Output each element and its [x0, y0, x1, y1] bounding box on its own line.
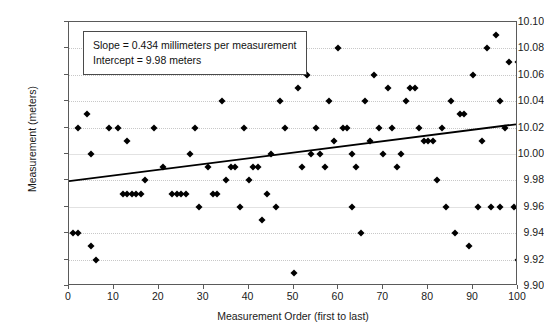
x-tick-mark: [337, 285, 338, 289]
x-tick-mark: [427, 285, 428, 289]
data-point: [510, 203, 517, 210]
data-point: [115, 124, 122, 131]
data-point: [474, 203, 481, 210]
data-point: [106, 124, 113, 131]
x-tick-mark: [248, 285, 249, 289]
data-point: [232, 164, 239, 171]
data-point: [124, 137, 131, 144]
data-point: [375, 124, 382, 131]
data-point: [92, 256, 99, 263]
data-point: [236, 203, 243, 210]
data-point: [479, 137, 486, 144]
data-point: [259, 216, 266, 223]
data-point: [411, 84, 418, 91]
data-point: [317, 150, 324, 157]
data-point: [492, 32, 499, 39]
data-point: [254, 164, 261, 171]
data-point: [88, 243, 95, 250]
data-point: [389, 124, 396, 131]
data-point: [366, 137, 373, 144]
data-point: [326, 98, 333, 105]
data-point: [245, 177, 252, 184]
gridline: [69, 260, 516, 261]
data-point: [362, 98, 369, 105]
data-point: [74, 230, 81, 237]
x-tick-mark: [293, 285, 294, 289]
x-tick-label: 30: [183, 290, 223, 302]
data-point: [187, 150, 194, 157]
data-point: [483, 45, 490, 52]
data-point: [290, 269, 297, 276]
data-point: [205, 164, 212, 171]
data-point: [393, 164, 400, 171]
data-point: [434, 177, 441, 184]
data-point: [335, 45, 342, 52]
x-tick-label: 80: [407, 290, 447, 302]
data-point: [496, 98, 503, 105]
data-point: [488, 203, 495, 210]
x-tick-label: 20: [138, 290, 178, 302]
data-point: [371, 71, 378, 78]
data-point: [416, 124, 423, 131]
data-point: [196, 203, 203, 210]
data-point: [470, 71, 477, 78]
data-point: [241, 124, 248, 131]
data-point: [344, 124, 351, 131]
data-point: [505, 58, 512, 65]
data-point: [223, 177, 230, 184]
data-point: [276, 98, 283, 105]
data-point: [465, 243, 472, 250]
x-tick-mark: [382, 285, 383, 289]
data-point: [438, 124, 445, 131]
gridline: [69, 154, 516, 155]
x-tick-label: 100: [497, 290, 537, 302]
x-tick-mark: [472, 285, 473, 289]
data-point: [514, 256, 517, 263]
data-point: [514, 58, 517, 65]
data-point: [380, 150, 387, 157]
data-point: [312, 124, 319, 131]
x-tick-label: 10: [93, 290, 133, 302]
y-axis-title: Measurement (meters): [26, 29, 38, 249]
data-point: [83, 111, 90, 118]
data-point: [429, 137, 436, 144]
data-point: [501, 124, 508, 131]
data-point: [182, 190, 189, 197]
x-axis-title: Measurement Order (first to last): [68, 310, 518, 322]
data-point: [308, 150, 315, 157]
x-tick-label: 60: [317, 290, 357, 302]
data-point: [447, 98, 454, 105]
data-point: [452, 230, 459, 237]
data-point: [353, 164, 360, 171]
slope-text: Slope = 0.434 millimeters per measuremen…: [93, 38, 296, 53]
data-point: [160, 164, 167, 171]
x-tick-mark: [203, 285, 204, 289]
data-point: [294, 84, 301, 91]
x-tick-mark: [113, 285, 114, 289]
x-tick-label: 50: [273, 290, 313, 302]
data-point: [443, 203, 450, 210]
gridline: [69, 180, 516, 181]
data-point: [263, 190, 270, 197]
x-tick-label: 0: [48, 290, 88, 302]
x-tick-mark: [158, 285, 159, 289]
statistics-annotation-box: Slope = 0.434 millimeters per measuremen…: [83, 31, 307, 75]
data-point: [398, 150, 405, 157]
data-point: [384, 84, 391, 91]
data-point: [142, 177, 149, 184]
data-point: [348, 203, 355, 210]
data-point: [218, 98, 225, 105]
data-point: [357, 230, 364, 237]
data-point: [151, 124, 158, 131]
x-tick-label: 70: [362, 290, 402, 302]
data-point: [299, 164, 306, 171]
gridline: [69, 233, 516, 234]
data-point: [321, 164, 328, 171]
intercept-text: Intercept = 9.98 meters: [93, 53, 296, 68]
data-point: [330, 137, 337, 144]
data-point: [88, 150, 95, 157]
data-point: [348, 150, 355, 157]
x-tick-mark: [68, 285, 69, 289]
gridline: [69, 128, 516, 129]
data-point: [402, 98, 409, 105]
